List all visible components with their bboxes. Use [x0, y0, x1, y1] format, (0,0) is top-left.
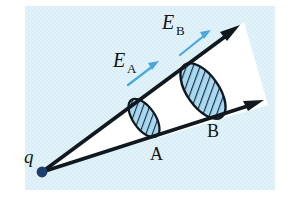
- point-charge: [37, 167, 48, 178]
- cross-section-label-b: B: [207, 121, 219, 141]
- field-label-a-symbol: E: [112, 49, 125, 71]
- charge-label: q: [24, 146, 34, 167]
- flux-cone-diagram: q E A E B A B: [0, 0, 291, 204]
- cross-section-label-a: A: [150, 144, 163, 164]
- field-label-a-subscript: A: [127, 61, 137, 76]
- field-label-b-symbol: E: [161, 11, 174, 33]
- field-label-b-subscript: B: [176, 23, 185, 38]
- figure-container: q E A E B A B: [0, 0, 291, 204]
